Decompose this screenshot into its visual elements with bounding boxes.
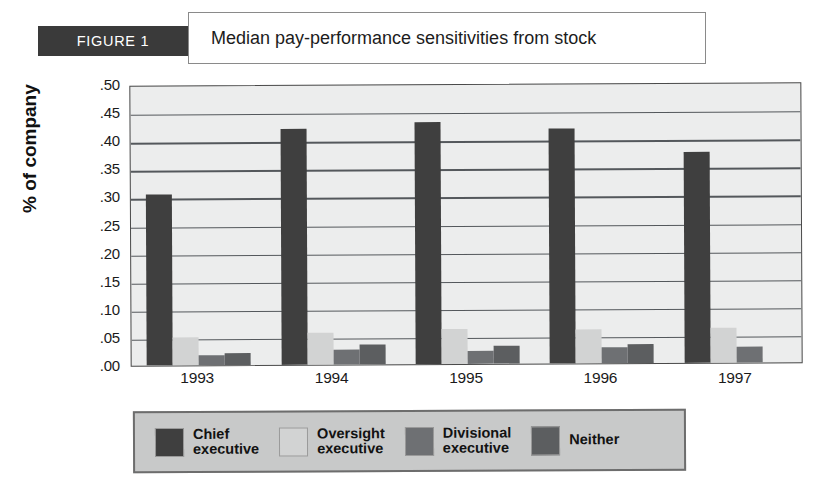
bar[interactable] [602, 347, 628, 363]
bar[interactable] [628, 344, 654, 363]
legend-label: Oversight executive [317, 426, 385, 457]
y-axis-tick-labels: .50.45.40.35.30.25.20.15.10.05.00 [74, 84, 124, 365]
x-tick-label: 1997 [718, 369, 752, 387]
bar[interactable] [307, 333, 333, 365]
x-tick-label: 1994 [315, 369, 349, 387]
bar[interactable] [468, 350, 494, 364]
legend-label: Chief executive [193, 426, 259, 457]
y-tick-label: .20 [100, 244, 120, 261]
x-tick-label: 1996 [584, 369, 618, 387]
bar[interactable] [199, 355, 225, 365]
legend-label: Divisional executive [443, 425, 512, 456]
legend-item[interactable]: Neither [531, 426, 619, 455]
bar[interactable] [414, 122, 441, 364]
x-tick-label: 1993 [180, 369, 214, 387]
x-tick-label: 1995 [449, 369, 483, 387]
bar[interactable] [683, 152, 710, 363]
bar-group [399, 85, 535, 365]
bars-layer [130, 83, 801, 365]
y-tick-label: .10 [100, 300, 120, 317]
bar[interactable] [736, 346, 762, 362]
y-tick-label: .45 [100, 104, 120, 121]
bar[interactable] [549, 129, 576, 364]
bar-group [130, 86, 266, 366]
legend-swatch-icon [531, 426, 560, 455]
bar-group [534, 84, 670, 364]
legend-item[interactable]: Chief executive [155, 426, 259, 457]
figure-title-box: Median pay-performance sensitivities fro… [188, 12, 706, 64]
bar[interactable] [173, 337, 199, 365]
chart-container: % of company .50.45.40.35.30.25.20.15.10… [0, 72, 838, 402]
bar[interactable] [441, 329, 467, 365]
y-tick-label: .05 [100, 328, 120, 345]
y-tick-label: .25 [100, 216, 120, 233]
bar-group [668, 83, 803, 363]
legend-swatch-icon [279, 427, 308, 456]
figure-number-tag: FIGURE 1 [38, 26, 188, 56]
bar[interactable] [333, 349, 359, 364]
bar[interactable] [494, 346, 520, 364]
bar[interactable] [576, 330, 602, 364]
y-axis-title: % of company [19, 173, 41, 213]
legend-item[interactable]: Oversight executive [279, 426, 385, 457]
y-tick-label: .30 [100, 188, 120, 205]
legend-swatch-icon [155, 427, 184, 456]
y-tick-label: .35 [100, 160, 120, 177]
y-tick-label: .50 [100, 76, 120, 93]
bar[interactable] [225, 353, 251, 365]
bar-group [265, 85, 401, 365]
bar[interactable] [710, 328, 736, 363]
figure-title: Median pay-performance sensitivities fro… [189, 28, 596, 49]
x-axis-tick-labels: 19931994199519961997 [130, 369, 802, 393]
y-tick-label: .40 [100, 132, 120, 149]
legend-item[interactable]: Divisional executive [405, 425, 512, 456]
y-tick-label: .15 [100, 272, 120, 289]
bar[interactable] [280, 129, 307, 365]
chart-legend: Chief executiveOversight executiveDivisi… [133, 409, 686, 473]
bar[interactable] [359, 345, 385, 365]
bar[interactable] [146, 194, 173, 366]
legend-label: Neither [569, 432, 619, 448]
figure-header: FIGURE 1 Median pay-performance sensitiv… [0, 12, 838, 66]
plot-area [129, 82, 802, 366]
y-tick-label: .00 [100, 357, 120, 374]
legend-swatch-icon [405, 426, 434, 455]
